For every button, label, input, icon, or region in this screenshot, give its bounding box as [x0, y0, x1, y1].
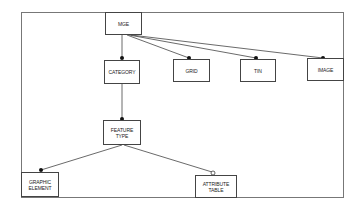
edge-feature-type-graphic-element: [41, 145, 122, 170]
edge-mge-image: [131, 35, 323, 58]
diagram-frame: [22, 13, 344, 198]
node-label: TIN: [254, 68, 262, 74]
edge-mge-tin: [129, 35, 256, 58]
node-label: CATEGORY: [109, 69, 136, 75]
node-category: CATEGORY: [104, 60, 140, 84]
node-label: MGE: [118, 21, 129, 27]
node-graphic-element: GRAPHIC ELEMENT: [21, 172, 59, 197]
node-label: FEATURE TYPE: [111, 127, 133, 139]
node-attribute-table: ATTRIBUTE TABLE: [195, 175, 237, 198]
node-grid: GRID: [173, 59, 210, 82]
node-mge: MGE: [105, 12, 142, 35]
node-label: GRID: [185, 68, 197, 74]
node-tin: TIN: [240, 59, 276, 82]
node-image: IMAGE: [307, 58, 344, 81]
edge-feature-type-attribute-table: [124, 145, 212, 172]
node-label: GRAPHIC ELEMENT: [29, 179, 52, 191]
node-feature-type: FEATURE TYPE: [103, 120, 141, 145]
node-label: ATTRIBUTE TABLE: [203, 181, 230, 193]
node-label: IMAGE: [318, 67, 334, 73]
